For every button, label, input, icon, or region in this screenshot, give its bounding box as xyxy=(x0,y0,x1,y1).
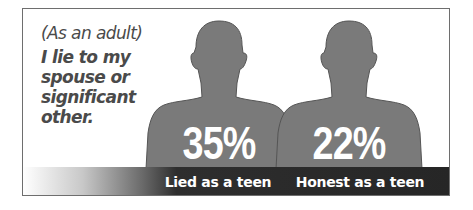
group-label-lied: Lied as a teen xyxy=(153,173,283,191)
percentage-value: 22% xyxy=(288,120,411,166)
percentage-value: 35% xyxy=(158,120,281,166)
person-silhouette-honest: 22% xyxy=(274,17,424,169)
person-silhouette-lied: 35% xyxy=(144,17,294,169)
group-label-honest: Honest as a teen xyxy=(285,173,435,191)
label-bar: Lied as a teen Honest as a teen xyxy=(23,167,449,195)
infographic-frame: (As an adult) I lie to my spouse or sign… xyxy=(22,8,450,196)
